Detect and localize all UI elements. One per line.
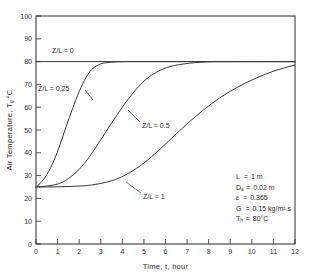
leader-zl-1 bbox=[126, 182, 141, 193]
annotation-leaders bbox=[85, 90, 141, 193]
y-axis-title-unit: °C bbox=[5, 89, 14, 98]
svg-text:Air Temperature, Tg°C: Air Temperature, Tg°C bbox=[5, 89, 14, 170]
param-sub: h bbox=[240, 217, 243, 223]
parameter-block: L=1 m Ds=0.02 m ε=0.365 G=0.15 kg/m² s T… bbox=[236, 173, 292, 223]
chart-svg: 0 10 20 30 40 50 60 70 80 90 100 bbox=[0, 0, 318, 276]
y-axis-title-main: Air Temperature bbox=[5, 113, 14, 171]
param-value: 0.365 bbox=[250, 194, 268, 201]
x-tick-label: 8 bbox=[207, 248, 211, 255]
param-value: 1 m bbox=[251, 173, 263, 180]
y-tick-marks bbox=[36, 16, 41, 244]
param-symbol: ε bbox=[236, 194, 239, 201]
y-tick-label: 0 bbox=[28, 241, 32, 248]
x-tick-label: 9 bbox=[228, 248, 232, 255]
param-value: 80°C bbox=[253, 215, 269, 222]
param-value: 0.15 kg/m² s bbox=[253, 205, 292, 213]
leader-zl-05 bbox=[128, 110, 140, 122]
param-symbol: G bbox=[236, 205, 241, 212]
chart-figure: 0 10 20 30 40 50 60 70 80 90 100 bbox=[0, 0, 318, 276]
param-eq: = bbox=[245, 205, 249, 212]
y-tick-label: 40 bbox=[24, 149, 32, 156]
parameter-line-L: L=1 m bbox=[236, 173, 263, 180]
param-eq: = bbox=[246, 215, 250, 222]
param-eq: = bbox=[244, 173, 248, 180]
x-tick-label: 11 bbox=[270, 248, 277, 255]
parameter-line-Th: Th=80°C bbox=[236, 215, 268, 223]
y-tick-label: 80 bbox=[24, 58, 32, 65]
annotation-zl-1: Z/L = 1 bbox=[143, 193, 165, 200]
y-tick-labels: 0 10 20 30 40 50 60 70 80 90 100 bbox=[20, 13, 32, 248]
y-tick-label: 70 bbox=[24, 81, 32, 88]
y-tick-label: 30 bbox=[24, 172, 32, 179]
parameter-line-Ds: Ds=0.02 m bbox=[236, 184, 275, 192]
x-tick-label: 2 bbox=[77, 248, 81, 255]
y-tick-label: 90 bbox=[24, 35, 32, 42]
x-tick-label: 1 bbox=[56, 248, 60, 255]
param-eq: = bbox=[246, 184, 250, 191]
param-sub: s bbox=[241, 186, 244, 192]
parameter-line-G: G=0.15 kg/m² s bbox=[236, 205, 292, 213]
x-tick-marks bbox=[36, 239, 295, 244]
y-tick-label: 100 bbox=[20, 13, 32, 20]
y-tick-label: 10 bbox=[24, 218, 32, 225]
x-tick-labels: 0 1 2 3 4 5 6 7 8 9 10 11 12 bbox=[34, 248, 299, 255]
y-axis-title-sub: g bbox=[8, 100, 14, 103]
param-value: 0.02 m bbox=[253, 184, 275, 191]
x-tick-label: 6 bbox=[164, 248, 168, 255]
y-axis-title-sep: , T bbox=[5, 103, 14, 113]
y-tick-label: 50 bbox=[24, 127, 32, 134]
x-axis-title: Time, t, hour bbox=[143, 262, 189, 271]
x-tick-label: 12 bbox=[291, 248, 299, 255]
x-tick-label: 3 bbox=[99, 248, 103, 255]
x-tick-label: 4 bbox=[120, 248, 124, 255]
y-tick-label: 20 bbox=[24, 195, 32, 202]
x-tick-label: 5 bbox=[142, 248, 146, 255]
x-tick-label: 7 bbox=[185, 248, 189, 255]
x-tick-label: 0 bbox=[34, 248, 38, 255]
leader-zl-025 bbox=[85, 90, 93, 100]
y-tick-label: 60 bbox=[24, 104, 32, 111]
annotation-zl-0: Z/L = 0 bbox=[52, 47, 74, 54]
annotation-zl-025: Z/L = 0.25 bbox=[38, 85, 70, 92]
param-eq: = bbox=[243, 194, 247, 201]
x-tick-label: 10 bbox=[248, 248, 256, 255]
parameter-line-epsilon: ε=0.365 bbox=[236, 194, 268, 201]
annotation-zl-05: Z/L = 0.5 bbox=[142, 122, 170, 129]
y-axis-title: Air Temperature, Tg°C bbox=[5, 89, 14, 170]
param-symbol: L bbox=[236, 173, 240, 180]
